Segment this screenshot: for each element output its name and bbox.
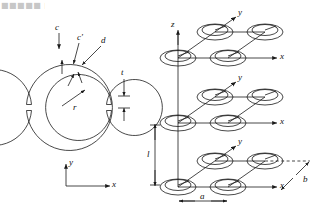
label-t: t: [121, 68, 124, 77]
technical-figure: [0, 0, 327, 215]
srr-lattice-panel: [150, 17, 310, 201]
srr-cross-section-panel: [0, 33, 162, 186]
label-axis-y-bottom: y: [238, 137, 242, 146]
label-d: d: [101, 36, 106, 45]
label-axis-x-bottom: x: [280, 181, 284, 190]
label-left-axis-y: y: [69, 158, 73, 167]
inner-ring-outer-edge: [46, 75, 112, 141]
label-axis-x-middle: x: [280, 117, 284, 126]
lattice-layer-bottom: [160, 146, 310, 195]
label-b: b: [303, 175, 308, 184]
label-l: l: [147, 150, 150, 159]
label-axis-y-top: y: [238, 8, 242, 17]
lattice-layer-top: [160, 17, 283, 66]
d-span-arrow-b: [78, 72, 82, 83]
label-axis-y-middle: y: [238, 73, 242, 82]
label-axis-z: z: [171, 20, 175, 29]
leader-c-prime: [74, 43, 80, 64]
leader-d: [82, 46, 101, 65]
label-a: a: [200, 192, 205, 201]
figure-canvas: ■■■■■ ■■: [0, 0, 327, 215]
outer-ring-inner-edge: [0, 70, 32, 146]
label-c-prime: c': [77, 33, 83, 42]
lattice-layer-middle: [160, 82, 283, 131]
label-axis-x-top: x: [280, 52, 284, 61]
inner-ring-inner-edge: [107, 80, 163, 136]
label-c: c: [55, 23, 59, 32]
label-left-axis-x: x: [112, 180, 116, 189]
outer-ring-outer-edge: [27, 64, 113, 150]
label-r: r: [73, 103, 77, 112]
